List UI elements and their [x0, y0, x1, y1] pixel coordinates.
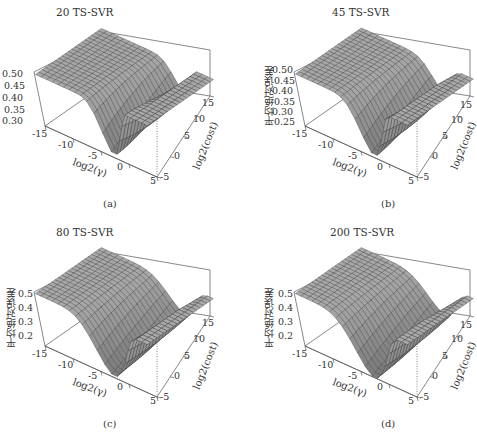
x-tick: -15 [292, 348, 307, 359]
y-tick: -5 [160, 391, 169, 402]
x-tick: -5 [88, 370, 97, 381]
chart-panel-b: 45 TS-SVR (b) 平均绝对误差 log2(γ) log2(cost) … [240, 0, 477, 218]
x-tick: 5 [408, 395, 414, 406]
z-tick: 0.4 [18, 302, 33, 313]
x-tick: -5 [88, 150, 97, 161]
z-tick: 0.2 [278, 330, 293, 341]
z-tick: 0.40 [2, 92, 23, 103]
y-tick: 0 [432, 370, 438, 381]
x-tick: 0 [377, 381, 383, 392]
chart-panel-c: 80 TS-SVR (c) 平均绝对误差 log2(γ) log2(cost) … [0, 218, 238, 436]
x-tick: 5 [408, 175, 414, 186]
chart-title: 45 TS-SVR [332, 6, 390, 18]
y-tick: 5 [184, 130, 190, 141]
y-tick: 15 [460, 319, 472, 330]
y-tick: 15 [202, 317, 214, 328]
z-tick: 0.25 [274, 116, 295, 127]
chart-caption: (a) [103, 198, 117, 209]
x-tick: -15 [32, 348, 47, 359]
z-tick: 0.3 [278, 316, 293, 327]
x-tick: 0 [117, 161, 123, 172]
z-tick: 0.5 [278, 288, 293, 299]
y-tick: 10 [193, 113, 205, 124]
x-tick: 5 [150, 395, 156, 406]
chart-caption: (d) [381, 418, 395, 429]
z-tick: 0.5 [18, 288, 33, 299]
x-tick: 0 [117, 381, 123, 392]
x-tick: 0 [377, 161, 383, 172]
chart-title: 80 TS-SVR [56, 226, 114, 238]
chart-caption: (c) [103, 418, 116, 429]
z-tick: 0.45 [4, 80, 25, 91]
z-tick: 0.50 [2, 68, 23, 79]
x-tick: -5 [348, 370, 357, 381]
z-tick: 0.2 [18, 330, 33, 341]
x-tick: -10 [58, 359, 73, 370]
z-tick: 0.3 [18, 316, 33, 327]
x-tick: -10 [318, 359, 333, 370]
surface-plot [0, 0, 238, 218]
z-axis-label: 平均绝对误差 [4, 288, 19, 348]
chart-panel-d: 200 TS-SVR (d) 平均绝对误差 log2(γ) log2(cost)… [240, 218, 477, 436]
y-tick: 5 [442, 350, 448, 361]
y-tick: 5 [184, 350, 190, 361]
x-tick: -10 [58, 139, 73, 150]
y-tick: -5 [160, 171, 169, 182]
x-tick: -5 [348, 150, 357, 161]
y-tick: 10 [451, 114, 463, 125]
z-tick: 0.40 [272, 85, 293, 96]
z-tick: 0.35 [4, 104, 25, 115]
x-tick: -15 [292, 128, 307, 139]
y-tick: 0 [432, 150, 438, 161]
chart-title: 20 TS-SVR [56, 6, 114, 18]
y-tick: 10 [451, 333, 463, 344]
x-tick: -15 [32, 128, 47, 139]
chart-caption: (b) [381, 198, 395, 209]
y-tick: 15 [202, 97, 214, 108]
z-tick: 0.30 [2, 115, 23, 126]
x-tick: 5 [150, 175, 156, 186]
y-tick: 15 [460, 99, 472, 110]
chart-title: 200 TS-SVR [330, 226, 394, 238]
z-tick: 0.50 [272, 64, 293, 75]
y-tick: 5 [442, 130, 448, 141]
y-tick: -5 [420, 391, 429, 402]
chart-panel-a: 20 TS-SVR (a) log2(γ) log2(cost) 0.50 0.… [0, 0, 238, 218]
x-tick: -10 [318, 139, 333, 150]
y-tick: 0 [174, 150, 180, 161]
z-axis-label: 平均绝对误差 [262, 288, 277, 348]
y-tick: 0 [174, 370, 180, 381]
y-tick: -5 [420, 171, 429, 182]
y-tick: 10 [193, 333, 205, 344]
z-tick: 0.4 [278, 302, 293, 313]
